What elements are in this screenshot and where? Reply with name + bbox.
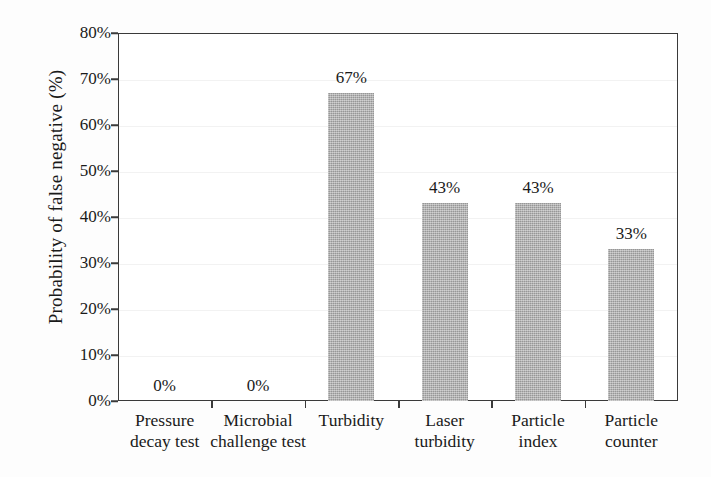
x-axis-category-label: Pressuredecay test [112,410,217,452]
bar-value-label: 43% [405,178,485,198]
x-axis-category-label: Laserturbidity [392,410,497,452]
x-axis-tick-mark [491,401,493,408]
x-axis-tick-mark [398,401,400,408]
category-label-line1: Microbial [223,410,292,430]
category-label-line1: Turbidity [319,410,385,430]
category-label-line2: index [485,431,590,452]
y-axis-tick-mark [111,308,118,310]
y-axis-tick-mark [111,78,118,80]
bar-value-label: 67% [311,68,391,88]
x-axis-tick-mark [585,401,587,408]
y-axis-tick-label: 20% [51,299,111,319]
category-label-line2: counter [579,431,684,452]
y-axis-tick-label: 10% [51,345,111,365]
bar-value-label: 43% [498,178,578,198]
x-axis-category-label: Particleindex [485,410,590,452]
plot-area [118,33,678,401]
x-axis-category-label: Turbidity [299,410,404,431]
y-axis-tick-label: 30% [51,253,111,273]
category-label-line1: Laser [425,410,464,430]
bar-chart-figure: Probability of false negative (%) 0%10%2… [0,0,711,477]
bar-value-label: 33% [591,224,671,244]
gridline [119,264,677,265]
x-axis-category-label: Microbialchallenge test [205,410,310,452]
gridline [119,172,677,173]
y-axis-tick-mark [111,354,118,356]
category-label-line2: turbidity [392,431,497,452]
gridline [119,126,677,127]
bar-value-label: 0% [125,376,205,396]
y-axis-tick-mark [111,216,118,218]
category-label-line2: decay test [112,431,217,452]
category-label-line2: challenge test [205,431,310,452]
bar [608,249,654,401]
y-axis-tick-label: 80% [51,23,111,43]
x-axis-tick-mark [305,401,307,408]
y-axis-tick-mark [111,400,118,402]
bar [422,203,468,401]
gridline [119,218,677,219]
x-axis-category-label: Particlecounter [579,410,684,452]
bar-value-label: 0% [218,376,298,396]
y-axis-tick-mark [111,124,118,126]
gridline [119,80,677,81]
gridline [119,310,677,311]
category-label-line1: Particle [605,410,658,430]
bar [515,203,561,401]
bar [328,93,374,401]
y-axis-tick-label: 0% [51,391,111,411]
category-label-line1: Particle [511,410,564,430]
y-axis-title: Probability of false negative (%) [45,7,67,387]
x-axis-tick-mark [211,401,213,408]
category-label-line1: Pressure [135,410,194,430]
y-axis-tick-mark [111,170,118,172]
y-axis-tick-label: 40% [51,207,111,227]
y-axis-tick-mark [111,32,118,34]
y-axis-tick-label: 60% [51,115,111,135]
gridline [119,356,677,357]
y-axis-tick-label: 70% [51,69,111,89]
y-axis-tick-label: 50% [51,161,111,181]
y-axis-tick-mark [111,262,118,264]
